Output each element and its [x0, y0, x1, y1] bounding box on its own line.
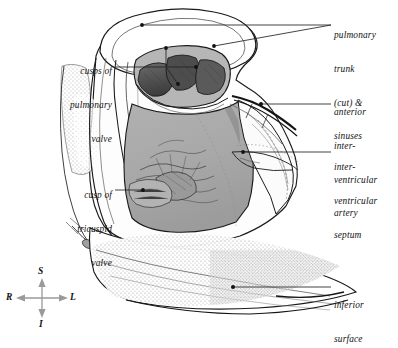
label-line: cusp of	[12, 190, 112, 201]
label-line: valve	[12, 134, 112, 145]
label-line: septum	[334, 230, 398, 241]
label-line: inferior	[334, 300, 398, 311]
label-cusp-of-tricuspid-valve: cusp of tricuspid valve	[12, 168, 112, 291]
label-line: pulmonary	[334, 30, 398, 41]
leader-anterior-interventricular-artery	[259, 102, 331, 106]
label-line: pulmonary	[12, 100, 112, 111]
label-line: ventricular	[334, 196, 398, 207]
label-inferior-surface: inferior surface	[334, 278, 398, 348]
label-line: cusps of	[12, 66, 112, 77]
compass-label-inferior: I	[39, 319, 43, 329]
label-line: anterior	[334, 107, 398, 118]
label-line: inter-	[334, 162, 398, 173]
compass-label-superior: S	[38, 266, 43, 276]
compass-label-right: R	[6, 292, 12, 302]
label-line: trunk	[334, 64, 398, 75]
compass-label-left: L	[70, 292, 76, 302]
label-line: tricuspid	[12, 224, 112, 235]
label-interventricular-septum: inter- ventricular septum	[334, 140, 398, 263]
label-line: surface	[334, 334, 398, 345]
right-ventricle-chamber	[124, 102, 253, 232]
label-line: valve	[12, 258, 112, 269]
label-cusps-of-pulmonary-valve: cusps of pulmonary valve	[12, 44, 112, 167]
